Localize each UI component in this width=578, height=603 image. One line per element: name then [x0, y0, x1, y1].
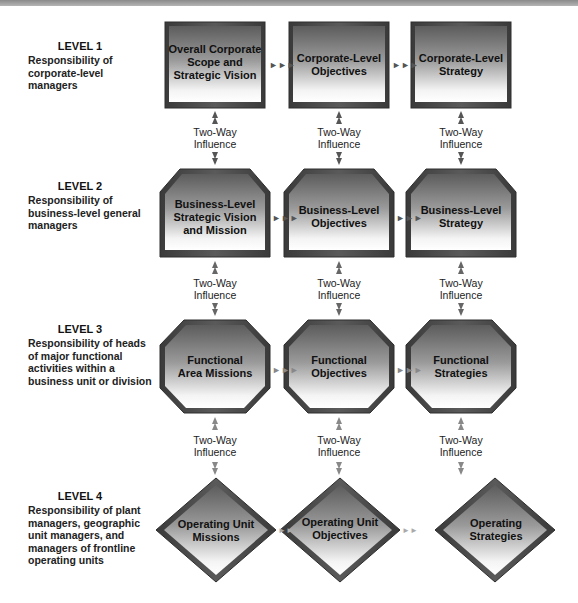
node-operating-missions: Operating UnitMissions [156, 478, 276, 582]
row-1-corporate: Overall CorporateScope andStrategic Visi… [165, 22, 511, 108]
arrow-right-icon: ►►► [392, 60, 419, 70]
node-operating-objectives: Operating UnitObjectives [280, 478, 400, 582]
hierarchy-diagram: Overall CorporateScope andStrategic Visi… [0, 0, 578, 603]
arrow-right-icon: ►► [402, 526, 418, 535]
arrow-right-icon: ►►► [272, 213, 299, 223]
svg-text:FunctionalObjectives: FunctionalObjectives [311, 354, 367, 379]
svg-text:FunctionalArea Missions: FunctionalArea Missions [178, 354, 253, 379]
row-4-operating: Operating UnitMissions Operating UnitObj… [156, 478, 555, 582]
svg-text:Two-WayInfluence: Two-WayInfluence [439, 434, 483, 458]
arrow-right-icon: ►► [278, 526, 294, 535]
arrow-right-icon: ►►► [272, 365, 299, 375]
two-way-connectors: Two-WayInfluence Two-WayInfluence Two-Wa… [193, 111, 483, 475]
svg-text:Two-WayInfluence: Two-WayInfluence [193, 126, 237, 150]
svg-text:Two-WayInfluence: Two-WayInfluence [317, 277, 361, 301]
svg-text:Two-WayInfluence: Two-WayInfluence [193, 277, 237, 301]
arrow-right-icon: ►►► [396, 213, 423, 223]
svg-text:Two-WayInfluence: Two-WayInfluence [193, 434, 237, 458]
svg-text:Business-LevelStrategic Vision: Business-LevelStrategic Visionand Missio… [174, 198, 257, 236]
svg-text:Operating UnitObjectives: Operating UnitObjectives [302, 516, 379, 541]
node-corporate-vision: Overall CorporateScope andStrategic Visi… [165, 22, 265, 108]
node-operating-strategies: OperatingStrategies [435, 478, 555, 582]
node-corporate-strategy: Corporate-LevelStrategy [411, 22, 511, 108]
row-2-business: Business-LevelStrategic Visionand Missio… [160, 169, 516, 257]
svg-text:OperatingStrategies: OperatingStrategies [469, 517, 522, 542]
svg-text:Two-WayInfluence: Two-WayInfluence [439, 126, 483, 150]
node-corporate-objectives: Corporate-LevelObjectives [289, 22, 389, 108]
svg-text:FunctionalStrategies: FunctionalStrategies [433, 354, 489, 379]
node-functional-missions: FunctionalArea Missions [160, 320, 270, 413]
arrow-right-icon: ►►► [269, 60, 296, 70]
node-business-objectives: Business-LevelObjectives [284, 169, 394, 257]
row-3-functional: FunctionalArea Missions FunctionalObject… [160, 320, 516, 413]
node-functional-objectives: FunctionalObjectives [284, 320, 394, 413]
svg-text:Two-WayInfluence: Two-WayInfluence [439, 277, 483, 301]
node-business-vision: Business-LevelStrategic Visionand Missio… [160, 169, 270, 257]
svg-text:Two-WayInfluence: Two-WayInfluence [317, 126, 361, 150]
arrow-right-icon: ►►► [396, 365, 423, 375]
svg-text:Two-WayInfluence: Two-WayInfluence [317, 434, 361, 458]
